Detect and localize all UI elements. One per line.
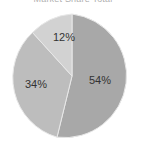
pie-slice-label-34: 34%: [25, 78, 47, 90]
pie-chart: 54% 34% 12%: [0, 0, 146, 149]
pie-chart-figure: Market Share Total 54% 34% 12%: [0, 0, 146, 149]
pie-slice-label-12: 12%: [53, 31, 75, 43]
pie-slice-label-54: 54%: [89, 74, 111, 86]
